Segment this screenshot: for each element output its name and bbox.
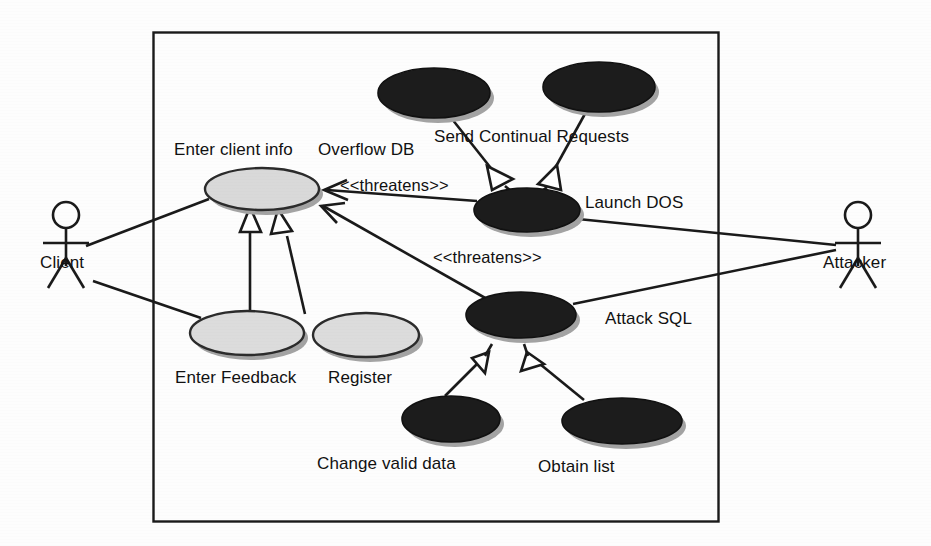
generalization-line-register (287, 236, 305, 314)
generalization-line-obtain-list (535, 360, 584, 400)
misuse-case-label-send-continual-requests: Send Continual Requests (434, 127, 629, 147)
use-case-enter-feedback[interactable] (190, 311, 304, 355)
misuse-case-overflow-db[interactable] (378, 68, 490, 118)
misuse-case-obtain-list[interactable] (562, 398, 682, 444)
diagram-vector-layer (0, 0, 931, 546)
threatens-links (321, 180, 487, 299)
misuse-case-label-attack-sql: Attack SQL (605, 309, 692, 329)
actor-label-attacker: Attacker (823, 253, 886, 273)
actor-attacker-head-icon (845, 202, 871, 228)
misuse-case-launch-dos[interactable] (474, 188, 580, 232)
actor-client[interactable] (43, 202, 89, 288)
generalization-arrow-overflow-db (487, 166, 513, 190)
misuse-case-send-continual-requests[interactable] (543, 62, 655, 112)
misuse-case-label-obtain-list: Obtain list (538, 457, 615, 477)
actor-attacker[interactable] (835, 202, 881, 288)
association-client-enter-client-info (86, 199, 209, 246)
use-case-label-register: Register (328, 368, 392, 388)
stereotype-label-threatens-lower: <<threatens>> (433, 248, 542, 267)
use-case-label-enter-client-info: Enter client info (174, 140, 293, 160)
generalization-arrow-obtain-list (521, 352, 544, 371)
use-case-label-enter-feedback: Enter Feedback (175, 368, 296, 388)
association-client-enter-feedback (93, 281, 201, 318)
misuse-case-attack-sql[interactable] (466, 292, 576, 338)
actor-label-client: Client (40, 253, 84, 273)
use-case-diagram-canvas: Enter client info Enter Feedback Registe… (0, 0, 931, 546)
stereotype-label-threatens-upper: <<threatens>> (340, 176, 449, 195)
generalization-arrow-send-continual-requests (538, 165, 561, 190)
misuse-case-change-valid-data[interactable] (402, 396, 500, 442)
misuse-case-label-change-valid-data: Change valid data (317, 454, 456, 474)
misuse-case-label-overflow-db: Overflow DB (318, 140, 415, 160)
actor-client-head-icon (53, 202, 79, 228)
misuse-case-label-launch-dos: Launch DOS (585, 193, 683, 213)
use-case-enter-client-info[interactable] (205, 168, 319, 210)
use-case-register[interactable] (313, 313, 419, 357)
association-attacker-attack-sql (573, 250, 836, 304)
association-attacker-launch-dos (578, 219, 836, 245)
